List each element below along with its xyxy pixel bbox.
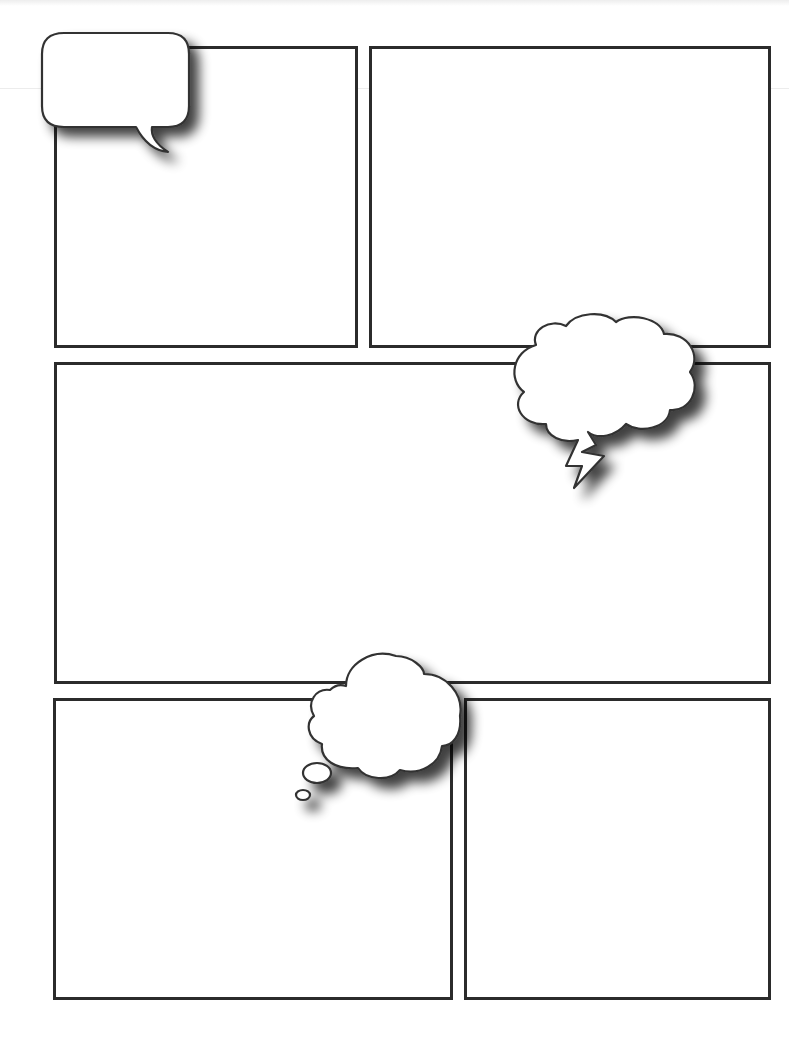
thought-bubble-icon[interactable] bbox=[0, 0, 789, 1057]
